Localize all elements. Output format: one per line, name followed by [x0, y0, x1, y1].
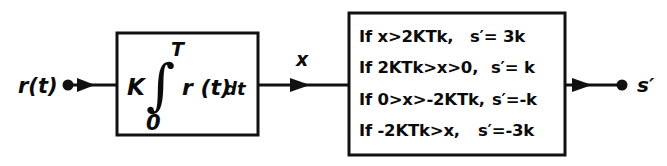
quantizer-result-2-text: s′= k	[491, 58, 536, 77]
quantizer-condition-4-text: If -2KTk>x,	[359, 121, 460, 140]
quantizer-result-3-text: s′=-k	[492, 90, 538, 109]
output-signal-label: s′	[637, 73, 655, 97]
intermediate-signal-label: x	[295, 48, 309, 70]
integral-lower-limit: 0	[146, 111, 161, 135]
diagram-canvas: r(t) K ∫ T 0 r (t) dt x If x>2KTk, s′= 3…	[0, 0, 667, 166]
output-node-dot	[617, 80, 628, 91]
differential-label: dt	[224, 78, 247, 99]
output-arrow-head	[572, 78, 592, 92]
integral-symbol: ∫	[146, 52, 175, 117]
quantizer-condition-1-text: If x>2KTk,	[359, 27, 453, 46]
intermediate-arrow-head	[290, 78, 310, 92]
block-diagram: r(t) K ∫ T 0 r (t) dt x If x>2KTk, s′= 3…	[0, 0, 667, 166]
quantizer-condition-2-text: If 2KTk>x>0,	[359, 58, 478, 77]
input-signal-label: r(t)	[18, 74, 58, 98]
quantizer-result-4-text: s′=-3k	[478, 121, 535, 140]
quantizer-condition-3-text: If 0>x>-2KTk,	[359, 90, 485, 109]
integral-upper-limit: T	[171, 38, 186, 60]
integrator-gain-label: K	[127, 74, 147, 100]
input-arrow-head	[77, 78, 95, 92]
quantizer-result-1-text: s′= 3k	[470, 27, 526, 46]
